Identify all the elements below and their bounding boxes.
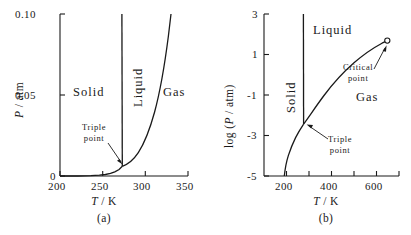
panel-b-x-axis-title-symbol: T xyxy=(313,195,320,207)
panel-a-triple-point-leader xyxy=(108,143,121,162)
panel-b-y-ticks xyxy=(264,14,269,176)
panel-a-x-axis-title-units: / K xyxy=(98,195,117,207)
panel-b-plot-area xyxy=(206,0,411,235)
panel-a-y-ticks xyxy=(60,14,65,176)
panel-b-ytick-label-minus3: -3 xyxy=(247,130,257,141)
panel-b-critical-point-marker xyxy=(385,38,390,43)
panel-a-caption: (a) xyxy=(97,213,111,225)
panel-a-x-ticks xyxy=(60,171,188,176)
panel-a-xtick-label-250: 250 xyxy=(91,181,109,192)
panel-b-sublimation-curve xyxy=(284,124,303,176)
panel-a-sublimation-curve xyxy=(60,166,122,176)
panel-a-x-axis-title: T / K xyxy=(91,196,117,208)
panel-b-ytick-label-minus1: -1 xyxy=(247,90,257,101)
panel-b-ytick-label-1: 1 xyxy=(252,49,258,60)
panel-a-annotation-triple-point-line1: Triple xyxy=(82,122,106,133)
chart-panel-b: 3 1 -1 -3 -5 200 400 600 log (P / atm) T… xyxy=(206,0,411,235)
panel-b-x-ticks xyxy=(287,171,400,176)
panel-b-xtick-label-600: 600 xyxy=(365,181,383,192)
panel-a-region-label-gas: Gas xyxy=(163,86,185,99)
panel-a-xtick-label-300: 300 xyxy=(133,181,151,192)
panel-b-y-axis-title: log (P / atm) xyxy=(224,84,236,148)
panel-a-annotation-triple-point-line2: point xyxy=(82,133,106,144)
panel-b-region-label-gas: Gas xyxy=(356,91,378,104)
panel-b-x-axis-title-units: / K xyxy=(320,195,339,207)
panel-b-x-axis-title: T / K xyxy=(313,196,339,208)
panel-a-ytick-label-0.10: 0.10 xyxy=(15,9,36,20)
panel-b-annotation-triple-point-line2: point xyxy=(328,145,352,156)
panel-b-y-axis-title-symbol: P xyxy=(223,117,235,124)
chart-panel-a: 0.10 0.05 0 200 250 300 350 P / atm T / … xyxy=(0,0,205,235)
panel-b-y-axis-title-prefix: log ( xyxy=(223,125,235,148)
panel-b-annotation-critical-point-line2: point xyxy=(343,73,373,84)
panel-b-critical-point-arrowhead xyxy=(383,45,387,52)
panel-a-region-label-liquid: Liquid xyxy=(132,68,145,107)
panel-b-triple-point-leader xyxy=(309,126,328,139)
panel-b-y-axis-title-units: / atm) xyxy=(223,84,235,117)
panel-b-ytick-label-3: 3 xyxy=(252,9,258,20)
panel-b-ytick-label-minus5: -5 xyxy=(247,171,257,182)
panel-b-annotation-triple-point-line1: Triple xyxy=(328,134,352,145)
panel-a-xtick-label-200: 200 xyxy=(48,181,66,192)
panel-b-region-label-liquid: Liquid xyxy=(313,24,352,37)
panel-a-y-axis-title: P / atm xyxy=(14,82,26,118)
panel-b-xtick-label-200: 200 xyxy=(275,181,293,192)
panel-a-annotation-triple-point: Triple point xyxy=(82,122,106,143)
panel-a-x-axis-title-symbol: T xyxy=(91,195,98,207)
panel-b-annotation-critical-point-line1: Critical xyxy=(343,62,373,73)
panel-a-xtick-label-350: 350 xyxy=(176,181,194,192)
panel-a-y-axis-title-symbol: P xyxy=(13,111,25,118)
panel-b-annotation-triple-point: Triple point xyxy=(328,134,352,155)
phase-diagram-figure: 0.10 0.05 0 200 250 300 350 P / atm T / … xyxy=(0,0,411,235)
panel-a-y-axis-title-units: / atm xyxy=(13,82,25,111)
panel-b-region-label-solid: Solid xyxy=(285,82,298,113)
panel-b-caption: (b) xyxy=(319,213,334,225)
panel-a-region-label-solid: Solid xyxy=(73,86,104,99)
panel-b-annotation-critical-point: Critical point xyxy=(343,62,373,83)
panel-b-xtick-label-400: 400 xyxy=(320,181,338,192)
